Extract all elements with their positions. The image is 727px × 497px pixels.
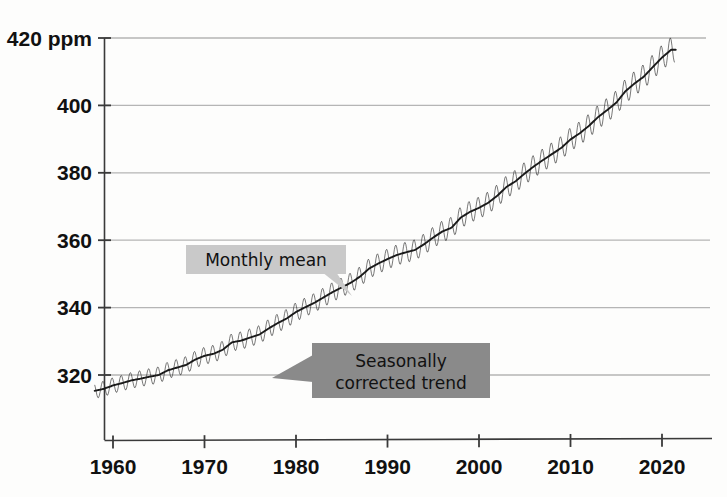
callout-trend-label-line1: Seasonally [355,351,447,371]
callout-monthly-mean-label: Monthly mean [205,250,327,270]
x-tick-label-2000: 2000 [456,455,503,478]
y-tick-label-360: 360 [57,229,92,252]
x-tick-label-1970: 1970 [181,455,228,478]
chart-canvas: 320340360380400420 ppm 19601970198019902… [0,0,727,497]
x-tick-label-1960: 1960 [90,455,137,478]
y-tick-label-380: 380 [57,161,92,184]
x-tick-label-2020: 2020 [639,455,686,478]
x-tick-label-1980: 1980 [273,455,320,478]
callout-trend-label-line2: corrected trend [335,373,466,393]
y-tick-label-400: 400 [57,94,92,117]
x-tick-label-1990: 1990 [364,455,411,478]
y-tick-label-340: 340 [57,296,92,319]
y-tick-label-420: 420 ppm [7,27,92,50]
keeling-curve-chart: 320340360380400420 ppm 19601970198019902… [0,0,727,497]
x-tick-label-2010: 2010 [547,455,594,478]
y-tick-label-320: 320 [57,364,92,387]
chart-background [0,0,727,497]
